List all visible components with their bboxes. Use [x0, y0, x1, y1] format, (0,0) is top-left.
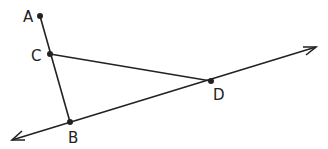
segment-cd — [50, 54, 211, 81]
point-b — [67, 119, 73, 125]
point-c — [47, 51, 53, 57]
label-d: D — [213, 86, 225, 104]
point-d — [208, 78, 214, 84]
label-c: C — [31, 47, 41, 65]
point-a — [37, 13, 43, 19]
label-a: A — [23, 8, 34, 26]
segment-ab — [40, 16, 70, 122]
line-bd — [12, 47, 316, 140]
label-b: B — [68, 129, 78, 147]
geometry-diagram: A C B D — [0, 0, 328, 149]
